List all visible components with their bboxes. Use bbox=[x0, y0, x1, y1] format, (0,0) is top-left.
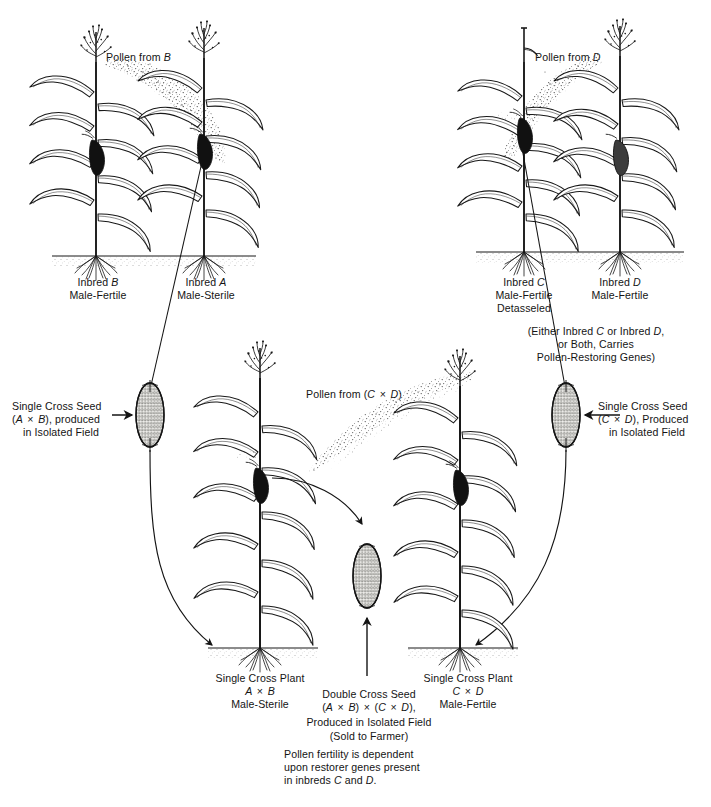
double-cross-line1: Double Cross Seed bbox=[278, 688, 460, 701]
label-inbred-c-line3: Detasseled bbox=[482, 302, 566, 315]
label-double-cross-seed: Double Cross Seed (A × B) × (C × D), Pro… bbox=[278, 688, 460, 743]
label-inbred-a-line1: Inbred A bbox=[164, 276, 248, 289]
plant-ab-line1: Single Cross Plant bbox=[198, 672, 322, 685]
label-inbred-b-line1: Inbred B bbox=[56, 276, 140, 289]
plant-cd-line1: Single Cross Plant bbox=[406, 672, 530, 685]
label-inbred-a-line2: Male-Sterile bbox=[164, 289, 248, 302]
single-cross-seed-ear-ab bbox=[136, 383, 164, 447]
footnote-line3: in inbreds C and D. bbox=[284, 774, 494, 787]
seed-cd-line1: Single Cross Seed bbox=[598, 400, 708, 413]
footnote-line2: upon restorer genes present bbox=[284, 761, 494, 774]
seed-ab-line2: (A × B), produced bbox=[12, 413, 116, 426]
seed-ab-line1: Single Cross Seed bbox=[12, 400, 116, 413]
diagram-canvas: Pollen from B Pollen from B Inbred B Mal… bbox=[0, 0, 711, 807]
ground-line-middle bbox=[208, 648, 518, 658]
restorer-note-line1: (Either Inbred C or Inbred D, bbox=[488, 325, 704, 338]
label-inbred-d-line2: Male-Fertile bbox=[578, 289, 662, 302]
label-inbred-c: Inbred C Male-Fertile Detasseled bbox=[482, 276, 566, 316]
label-single-cross-seed-ab: Single Cross Seed (A × B), produced in I… bbox=[12, 400, 116, 440]
seed-cd-line3: in Isolated Field bbox=[598, 426, 708, 439]
label-inbred-a: Inbred A Male-Sterile bbox=[164, 276, 248, 302]
double-cross-line4: (Sold to Farmer) bbox=[278, 730, 460, 743]
restorer-note-line3: Pollen-Restoring Genes) bbox=[488, 351, 704, 364]
label-inbred-b-line2: Male-Fertile bbox=[56, 289, 140, 302]
double-cross-line3: Produced in Isolated Field bbox=[278, 716, 460, 729]
footnote-line1: Pollen fertility is dependent bbox=[284, 748, 494, 761]
restorer-gene-note: (Either Inbred C or Inbred D, or Both, C… bbox=[488, 325, 704, 365]
plant-single-cross-ab bbox=[194, 340, 324, 672]
restorer-note-line2: or Both, Carries bbox=[488, 338, 704, 351]
label-inbred-d: Inbred D Male-Fertile bbox=[578, 276, 662, 302]
footnote-restorer-genes: Pollen fertility is dependent upon resto… bbox=[284, 748, 494, 788]
double-cross-seed-ear bbox=[353, 544, 381, 608]
label-inbred-c-line2: Male-Fertile bbox=[482, 289, 566, 302]
pollen-from-d-label: Pollen from D Pollen from D bbox=[535, 51, 655, 64]
single-cross-seed-ear-cd bbox=[552, 383, 580, 447]
label-inbred-d-line1: Inbred D bbox=[578, 276, 662, 289]
seed-cd-line2: (C × D), Produced bbox=[598, 413, 708, 426]
label-inbred-b: Inbred B Male-Fertile bbox=[56, 276, 140, 302]
ground-line-top-left bbox=[52, 256, 256, 267]
pollen-from-cd-label: Pollen from (C × D) Pollen from (C × D) bbox=[306, 388, 466, 401]
label-inbred-c-line1: Inbred C bbox=[482, 276, 566, 289]
double-cross-line2: (A × B) × (C × D), bbox=[278, 701, 460, 714]
flow-seed-ab-to-plant bbox=[150, 450, 212, 645]
ground-line-top-right bbox=[476, 252, 684, 263]
pollen-from-b-label: Pollen from B Pollen from B bbox=[106, 51, 226, 64]
label-single-cross-seed-cd: Single Cross Seed (C × D), Produced in I… bbox=[598, 400, 708, 440]
seed-ab-line3: in Isolated Field bbox=[12, 426, 116, 439]
